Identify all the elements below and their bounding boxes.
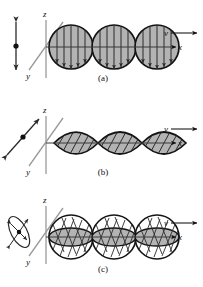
x-axis-label-a: x [177, 42, 182, 52]
panel-a: z y [13, 9, 197, 81]
velocity-label-a: v [164, 28, 168, 38]
indicator-dot-c [17, 230, 21, 234]
panel-c-caption: (c) [83, 264, 123, 274]
panel-b-caption: (b) [83, 167, 123, 177]
polarization-figure: z y [0, 0, 203, 287]
y-axis-label-a: y [25, 71, 30, 81]
panel-a-polarization-indicator [13, 22, 18, 70]
panel-a-caption: (a) [83, 73, 123, 83]
panel-c: z y [4, 195, 197, 267]
figure-svg: z y [0, 0, 203, 287]
panel-b-polarization-indicator [7, 119, 39, 155]
z-axis-label-b: z [42, 105, 47, 115]
z-axis-label-c: z [42, 195, 47, 205]
indicator-dot-b [20, 134, 25, 139]
x-axis-label-b: x [177, 138, 182, 148]
indicator-dot-a [13, 43, 18, 48]
velocity-label-b: v [164, 124, 168, 134]
panel-c-polarization-indicator [4, 213, 34, 251]
velocity-label-c: v [164, 218, 168, 228]
y-axis-label-c: y [25, 257, 30, 267]
x-axis-label-c: x [177, 232, 182, 242]
y-axis-label-b: y [25, 167, 30, 177]
z-axis-label-a: z [42, 9, 47, 19]
